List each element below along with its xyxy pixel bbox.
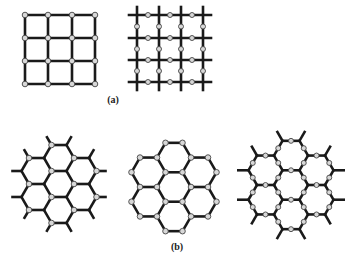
atom xyxy=(45,35,51,41)
atom xyxy=(146,13,151,18)
figure-label-b: (b) xyxy=(171,241,183,252)
atom xyxy=(263,212,268,217)
atom xyxy=(49,142,55,148)
atom xyxy=(205,214,211,220)
atom xyxy=(157,47,162,52)
atom xyxy=(168,36,173,41)
atom xyxy=(69,12,75,18)
square-lattice-atoms-at-vertices xyxy=(22,12,98,87)
atom xyxy=(180,199,186,205)
atom xyxy=(301,190,306,195)
atom xyxy=(154,214,160,220)
atom xyxy=(26,207,32,213)
atom xyxy=(263,183,268,188)
atom xyxy=(314,183,319,188)
atom xyxy=(301,160,306,165)
atom xyxy=(190,36,195,41)
atom xyxy=(201,24,206,29)
atom xyxy=(129,199,135,205)
atom xyxy=(301,219,306,224)
atom xyxy=(157,69,162,74)
atom xyxy=(154,155,160,161)
atom xyxy=(179,47,184,52)
atom xyxy=(180,228,186,234)
atom xyxy=(157,24,162,29)
atom xyxy=(92,58,98,64)
atom xyxy=(71,155,77,161)
atom xyxy=(190,13,195,18)
atom xyxy=(201,47,206,52)
atom xyxy=(71,207,77,213)
atom xyxy=(314,212,319,217)
atom xyxy=(26,181,32,187)
atom xyxy=(22,12,28,18)
atom xyxy=(163,228,169,234)
atom xyxy=(327,160,332,165)
atom xyxy=(205,155,211,161)
atom xyxy=(69,35,75,41)
atom xyxy=(22,58,28,64)
atom xyxy=(289,138,294,143)
atom xyxy=(250,205,255,210)
atom xyxy=(214,199,220,205)
atom xyxy=(69,81,75,87)
atom xyxy=(168,80,173,85)
figure-label-a: (a) xyxy=(107,94,119,105)
atom xyxy=(263,153,268,158)
atom xyxy=(49,168,55,174)
atom xyxy=(327,205,332,210)
atom xyxy=(22,35,28,41)
atom xyxy=(69,58,75,64)
atom xyxy=(188,184,194,190)
atom xyxy=(137,155,143,161)
atom xyxy=(94,194,100,200)
atom xyxy=(188,214,194,220)
atom xyxy=(190,58,195,63)
atom xyxy=(154,184,160,190)
atom xyxy=(146,36,151,41)
atom xyxy=(168,13,173,18)
atom xyxy=(137,184,143,190)
square-lattice-atoms-on-bonds xyxy=(129,7,211,90)
atom xyxy=(188,155,194,161)
hexagonal-lattice-one-sublattice xyxy=(13,137,106,231)
atom xyxy=(129,169,135,175)
atom xyxy=(45,58,51,64)
atom xyxy=(94,168,100,174)
atom xyxy=(137,214,143,220)
atom xyxy=(163,199,169,205)
atom xyxy=(289,168,294,173)
atom xyxy=(179,69,184,74)
atom xyxy=(146,58,151,63)
atom xyxy=(201,69,206,74)
atom xyxy=(327,190,332,195)
atom xyxy=(180,140,186,146)
atom xyxy=(146,80,151,85)
atom xyxy=(205,184,211,190)
atom xyxy=(301,205,306,210)
atom xyxy=(92,81,98,87)
atom xyxy=(92,35,98,41)
atom xyxy=(179,24,184,29)
atom xyxy=(250,175,255,180)
atom xyxy=(276,175,281,180)
atom xyxy=(45,12,51,18)
hexagonal-lattice-atoms-on-bonds xyxy=(238,132,343,238)
atom xyxy=(289,197,294,202)
atom xyxy=(327,175,332,180)
atom xyxy=(71,181,77,187)
atom xyxy=(250,160,255,165)
atom xyxy=(135,47,140,52)
atom xyxy=(180,169,186,175)
atom xyxy=(22,81,28,87)
atom xyxy=(49,194,55,200)
atom xyxy=(276,205,281,210)
atom xyxy=(214,169,220,175)
atom xyxy=(190,80,195,85)
atom xyxy=(26,155,32,161)
atom xyxy=(289,227,294,232)
atom xyxy=(301,146,306,151)
atom xyxy=(45,81,51,87)
atom xyxy=(314,153,319,158)
atom xyxy=(276,219,281,224)
